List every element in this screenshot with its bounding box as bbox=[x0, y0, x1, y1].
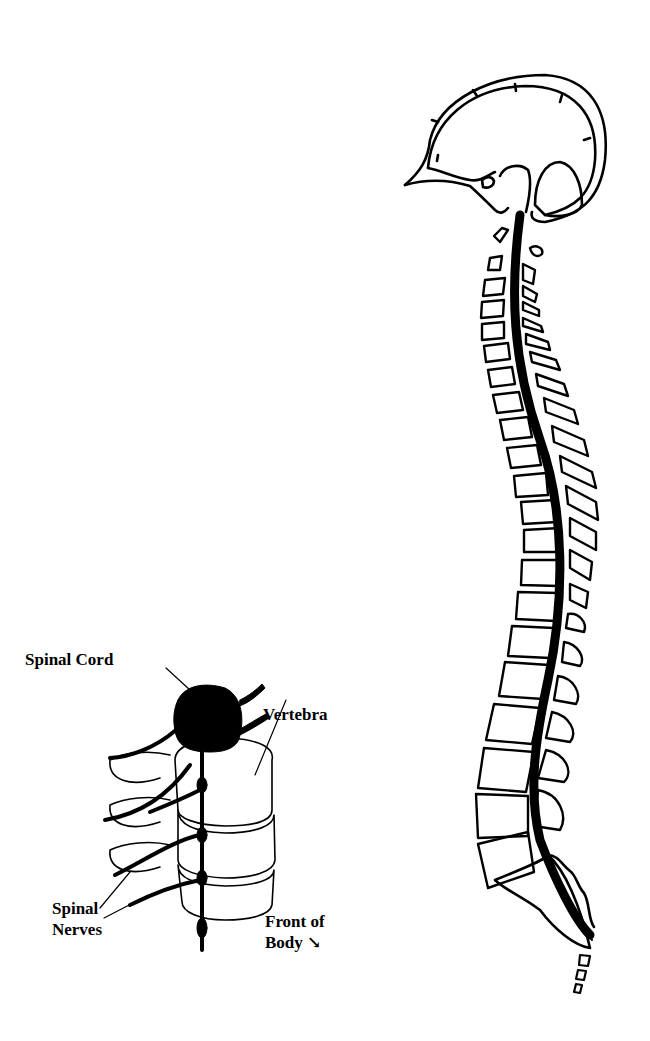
coccyx bbox=[574, 955, 590, 993]
skull-outline bbox=[405, 75, 606, 222]
label-spinal-nerves-line1: Spinal bbox=[52, 899, 98, 918]
label-front-of-body-line1: Front of bbox=[265, 912, 325, 931]
cerebellum bbox=[535, 162, 582, 216]
label-vertebra: Vertebra bbox=[263, 705, 328, 724]
vertebra-bodies-detail bbox=[110, 738, 275, 920]
spine-diagram bbox=[0, 0, 650, 1041]
spinal-cord bbox=[515, 215, 590, 935]
sacrum bbox=[495, 855, 590, 948]
spinal-cord-detail bbox=[174, 685, 242, 752]
spine-side-view bbox=[405, 75, 606, 993]
brainstem bbox=[500, 166, 530, 212]
label-spinal-nerves-line2: Nerves bbox=[52, 920, 102, 939]
spinal-nerves bbox=[105, 730, 200, 905]
label-front-of-body-line2: Body ↘ bbox=[265, 933, 321, 952]
vertebra-detail-view bbox=[100, 668, 286, 950]
label-spinal-cord: Spinal Cord bbox=[25, 650, 113, 669]
